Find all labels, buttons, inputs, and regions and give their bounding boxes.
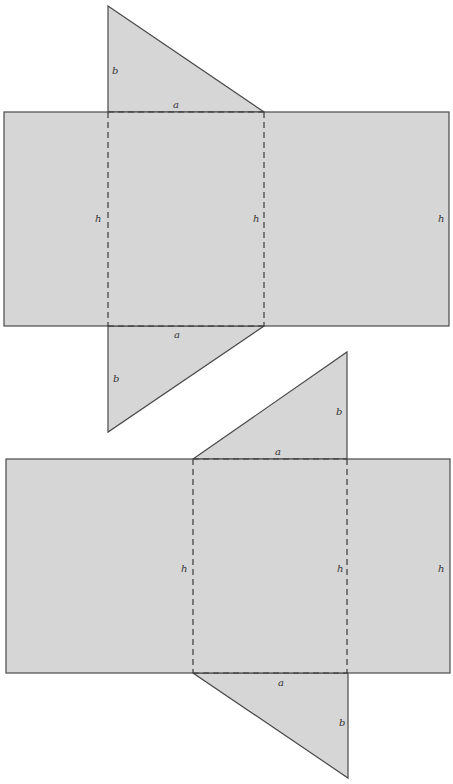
net1-label-left-h: h bbox=[95, 213, 101, 224]
net2-label-top-b: b bbox=[336, 406, 342, 417]
net1-top-triangle bbox=[108, 6, 264, 112]
net-2: b a h h h a b bbox=[6, 352, 450, 778]
net2-top-triangle bbox=[193, 352, 347, 459]
net1-label-top-b: b bbox=[112, 65, 118, 76]
net1-rectangle-strip bbox=[4, 112, 449, 326]
net2-rectangle-strip bbox=[6, 459, 450, 673]
net2-bottom-triangle bbox=[193, 673, 348, 778]
net2-label-right-h: h bbox=[438, 563, 444, 574]
net1-label-mid-h: h bbox=[253, 213, 259, 224]
net1-label-bottom-a: a bbox=[174, 329, 180, 340]
net-1: b a h h h a b bbox=[4, 6, 449, 432]
net2-label-left-h: h bbox=[181, 563, 187, 574]
net1-label-bottom-b: b bbox=[113, 373, 119, 384]
prism-nets-diagram: b a h h h a b b a h h h a b bbox=[0, 0, 453, 784]
net2-label-bottom-a: a bbox=[278, 677, 284, 688]
net1-bottom-triangle bbox=[108, 326, 264, 432]
net1-label-right-h: h bbox=[438, 213, 444, 224]
net1-label-top-a: a bbox=[173, 99, 179, 110]
net2-label-bottom-b: b bbox=[339, 717, 345, 728]
net2-label-mid-h: h bbox=[337, 563, 343, 574]
net2-label-top-a: a bbox=[275, 446, 281, 457]
